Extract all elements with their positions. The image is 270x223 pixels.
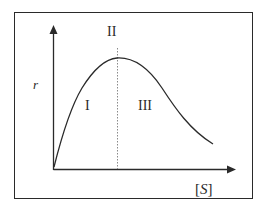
x-axis-label-var: S: [200, 181, 208, 197]
rate-curve: [54, 58, 213, 167]
x-axis-label-close: ]: [208, 181, 213, 197]
x-axis-label: [S]: [195, 182, 213, 197]
region-label-i: I: [85, 99, 90, 113]
y-axis-arrow-icon: [50, 25, 58, 34]
x-axis-arrow-icon: [227, 166, 236, 174]
region-label-iii: III: [138, 99, 152, 113]
region-label-ii: II: [107, 25, 116, 39]
y-axis-label: r: [33, 78, 38, 91]
plot-area: [0, 0, 270, 223]
